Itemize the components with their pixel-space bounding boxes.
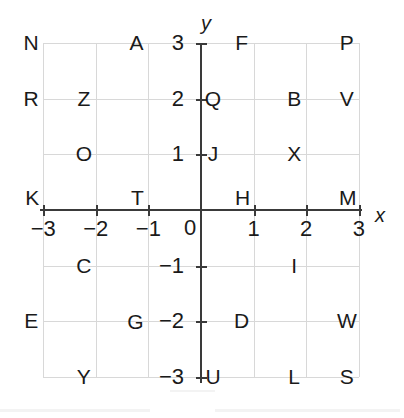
y-axis	[200, 43, 202, 383]
x-axis-label: x	[375, 205, 385, 225]
y-axis-label: y	[201, 13, 211, 33]
point-label-e: E	[24, 310, 38, 331]
y-axis-tick	[196, 321, 207, 323]
x-tick-label: −1	[136, 218, 161, 240]
x-tick-label: −3	[31, 218, 56, 240]
x-axis-tick	[148, 205, 150, 216]
point-label-u: U	[205, 365, 220, 386]
y-tick-label: 2	[172, 88, 184, 110]
point-label-r: R	[24, 87, 39, 108]
point-label-q: Q	[205, 87, 221, 108]
y-axis-tick	[196, 266, 207, 268]
point-label-g: G	[127, 311, 143, 332]
x-tick-label: 1	[247, 218, 259, 240]
point-label-s: S	[340, 365, 354, 386]
y-tick-label: −3	[159, 366, 184, 388]
x-axis-tick	[254, 205, 256, 216]
point-label-p: P	[340, 32, 354, 53]
x-axis-tick	[359, 205, 361, 216]
point-label-a: A	[129, 32, 143, 53]
x-axis-tick	[43, 205, 45, 216]
point-label-m: M	[339, 187, 357, 208]
x-axis-tick	[96, 205, 98, 216]
point-label-h: H	[235, 187, 250, 208]
x-axis-tick	[306, 205, 308, 216]
y-tick-label: −2	[159, 310, 184, 332]
x-tick-label: 2	[300, 218, 312, 240]
point-label-f: F	[235, 32, 248, 53]
point-label-w: W	[337, 310, 357, 331]
scan-artifact	[215, 409, 400, 412]
point-label-v: V	[340, 87, 354, 108]
y-tick-label: 3	[172, 32, 184, 54]
point-label-l: L	[288, 365, 300, 386]
origin-label: 0	[184, 217, 196, 239]
point-label-o: O	[76, 143, 92, 164]
point-label-b: B	[287, 87, 301, 108]
y-axis-tick	[196, 154, 207, 156]
point-label-z: Z	[77, 87, 90, 108]
point-label-i: I	[291, 254, 297, 275]
point-label-t: T	[131, 187, 144, 208]
y-tick-label: 1	[172, 143, 184, 165]
scan-artifact	[0, 409, 150, 412]
point-label-n: N	[24, 32, 39, 53]
point-label-j: J	[208, 143, 219, 164]
coordinate-plane: −3−2−1123321−1−2−3 0 x y NAFPRZQBVOJXKTH…	[0, 0, 404, 418]
point-label-k: K	[25, 187, 39, 208]
x-tick-label: −2	[83, 218, 108, 240]
point-label-d: D	[234, 310, 249, 331]
y-tick-label: −1	[159, 255, 184, 277]
y-axis-tick	[196, 43, 207, 45]
point-label-y: Y	[77, 365, 91, 386]
x-axis	[40, 209, 362, 211]
x-tick-label: 3	[353, 218, 365, 240]
scan-artifact	[170, 390, 215, 392]
point-label-x: X	[287, 143, 301, 164]
point-label-c: C	[76, 254, 91, 275]
